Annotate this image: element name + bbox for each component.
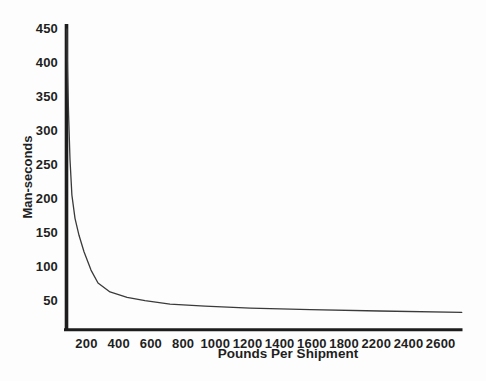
y-tick-label: 350 [0, 89, 58, 105]
x-tick-label: 400 [108, 337, 130, 351]
y-axis-tick-labels: 45040035030025020015010050 [0, 0, 58, 340]
y-tick-label: 200 [0, 191, 58, 207]
y-tick-label: 100 [0, 259, 58, 275]
x-tick-label: 600 [140, 337, 162, 351]
y-tick-label: 300 [0, 123, 58, 139]
data-curve [67, 29, 462, 313]
y-tick-label: 50 [0, 293, 58, 309]
y-tick-label: 250 [0, 157, 58, 173]
x-tick-label: 200 [75, 337, 97, 351]
y-tick-label: 150 [0, 225, 58, 241]
chart-canvas [0, 0, 486, 381]
x-tick-label: 2600 [426, 337, 456, 351]
line-chart-figure: Man-seconds 45040035030025020015010050 2… [0, 0, 486, 381]
x-tick-label: 2200 [361, 337, 391, 351]
x-tick-label: 2400 [394, 337, 424, 351]
x-tick-label: 800 [172, 337, 194, 351]
x-axis-title: Pounds Per Shipment [218, 346, 358, 361]
y-tick-label: 450 [0, 21, 58, 37]
y-tick-label: 400 [0, 55, 58, 71]
